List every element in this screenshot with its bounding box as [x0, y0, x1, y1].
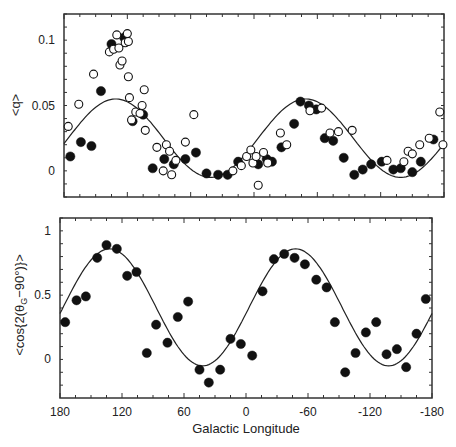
filled-data-point — [350, 170, 359, 179]
top-panel: 00.050.1 — [32, 14, 447, 197]
open-data-point — [118, 57, 126, 65]
filled-data-point — [72, 296, 81, 305]
filled-data-point — [163, 338, 172, 347]
x-tick-label: -60 — [299, 405, 317, 419]
open-data-point — [318, 104, 326, 112]
open-data-point — [408, 150, 416, 158]
filled-data-point — [87, 141, 96, 150]
open-data-point — [64, 122, 72, 130]
x-tick-label: 0 — [243, 405, 250, 419]
filled-data-point — [173, 312, 182, 321]
filled-data-point — [191, 148, 200, 157]
open-data-point — [383, 156, 391, 164]
filled-data-point — [341, 368, 350, 377]
filled-data-point — [361, 328, 370, 337]
open-data-point — [172, 156, 180, 164]
open-data-point — [159, 167, 167, 175]
filled-data-point — [184, 297, 193, 306]
open-data-point — [436, 108, 444, 116]
y-tick-label: 0.5 — [34, 288, 51, 302]
open-data-point — [113, 31, 121, 39]
filled-data-point — [112, 244, 121, 253]
filled-data-point — [322, 283, 331, 292]
filled-data-point — [102, 240, 111, 249]
open-data-point — [181, 138, 189, 146]
open-data-point — [416, 141, 424, 149]
filled-data-point — [290, 119, 299, 128]
bottom-y-axis-label: <cos{2(θG−90°)}> — [12, 254, 29, 355]
y-tick-label: 0.1 — [38, 33, 55, 47]
filled-data-point — [296, 97, 305, 106]
open-data-point — [348, 126, 356, 134]
open-data-point — [75, 100, 83, 108]
y-tick-label: 1 — [44, 224, 51, 238]
filled-data-point — [351, 348, 360, 357]
open-data-point — [123, 30, 131, 38]
open-data-point — [306, 107, 314, 115]
open-data-point — [326, 129, 334, 137]
filled-data-point — [204, 378, 213, 387]
filled-data-point — [181, 154, 190, 163]
y-tick-label: 0.05 — [32, 99, 56, 113]
y-tick-label: 0 — [44, 352, 51, 366]
filled-data-point — [367, 160, 376, 169]
filled-data-point — [421, 294, 430, 303]
filled-data-point — [290, 253, 299, 262]
open-data-point — [124, 37, 132, 45]
open-data-point — [141, 126, 149, 134]
filled-data-point — [392, 345, 401, 354]
filled-data-point — [402, 363, 411, 372]
open-data-point — [254, 181, 262, 189]
open-data-point — [425, 134, 433, 142]
filled-data-point — [280, 249, 289, 258]
filled-data-point — [81, 292, 90, 301]
open-data-point — [124, 73, 132, 81]
open-data-point — [128, 116, 136, 124]
x-tick-label: -180 — [420, 405, 444, 419]
open-data-point — [136, 109, 144, 117]
open-data-point — [190, 111, 198, 119]
open-data-point — [439, 141, 447, 149]
filled-data-point — [226, 334, 235, 343]
filled-data-point — [358, 165, 367, 174]
x-tick-label: 180 — [50, 405, 70, 419]
filled-data-point — [408, 168, 417, 177]
open-data-point — [229, 167, 237, 175]
top-y-axis-label: <q> — [8, 94, 23, 116]
open-data-point — [260, 149, 268, 157]
open-data-point — [264, 159, 272, 167]
figure: 00.050.1 00.51180120600-60-120-180 <q> <… — [0, 0, 456, 447]
y-tick-label: 0 — [48, 164, 55, 178]
open-data-point — [276, 129, 284, 137]
filled-data-point — [195, 365, 204, 374]
filled-data-point — [382, 350, 391, 359]
filled-data-point — [202, 169, 211, 178]
x-tick-label: 60 — [177, 405, 191, 419]
filled-data-point — [142, 348, 151, 357]
fit-curve — [60, 249, 432, 366]
open-data-point — [166, 147, 174, 155]
x-tick-label: 120 — [112, 405, 132, 419]
filled-data-point — [258, 287, 267, 296]
bottom-panel: 00.51180120600-60-120-180 — [34, 218, 444, 419]
filled-data-point — [148, 164, 157, 173]
filled-data-point — [416, 157, 425, 166]
open-data-point — [153, 143, 161, 151]
open-data-point — [125, 94, 133, 102]
filled-data-point — [372, 318, 381, 327]
filled-data-point — [269, 255, 278, 264]
open-data-point — [283, 141, 291, 149]
x-axis-label: Galactic Longitude — [192, 421, 300, 436]
filled-data-point — [61, 318, 70, 327]
filled-data-point — [300, 260, 309, 269]
filled-data-point — [330, 318, 339, 327]
filled-data-point — [76, 138, 85, 147]
filled-data-point — [132, 267, 141, 276]
x-tick-label: -120 — [358, 405, 382, 419]
open-data-point — [140, 86, 148, 94]
filled-data-point — [248, 351, 257, 360]
filled-data-point — [236, 339, 245, 348]
open-data-point — [90, 70, 98, 78]
filled-data-point — [160, 154, 169, 163]
open-data-point — [168, 171, 176, 179]
